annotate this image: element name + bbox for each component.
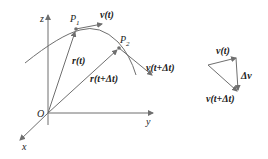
y-axis-label: y: [145, 116, 151, 127]
origin-label: O: [37, 108, 44, 119]
r-t-dt-label: r(t+Δt): [90, 73, 118, 85]
z-axis-label: z: [39, 13, 44, 24]
triangle-v-t: [208, 58, 236, 65]
v-t-label: v(t): [100, 9, 114, 21]
motion-diagram: z y x O P1 P2 r(t) r(t+Δt) v(t) v(t+Δt) …: [0, 0, 268, 159]
triangle-v-t-dt-label: v(t+Δt): [206, 93, 235, 105]
p1-label: P1: [69, 13, 80, 27]
point-p2: [117, 46, 121, 50]
triangle-v-t-dt: [208, 65, 237, 91]
triangle-delta-v: [236, 58, 238, 90]
triangle-delta-v-label: Δv: [240, 70, 252, 81]
v-t-dt-label: v(t+Δt): [146, 62, 175, 74]
p2-label: P2: [119, 34, 130, 48]
r-t-label: r(t): [72, 55, 85, 67]
x-axis-label: x: [21, 141, 27, 152]
point-p1: [74, 27, 78, 31]
triangle-v-t-label: v(t): [216, 45, 230, 57]
